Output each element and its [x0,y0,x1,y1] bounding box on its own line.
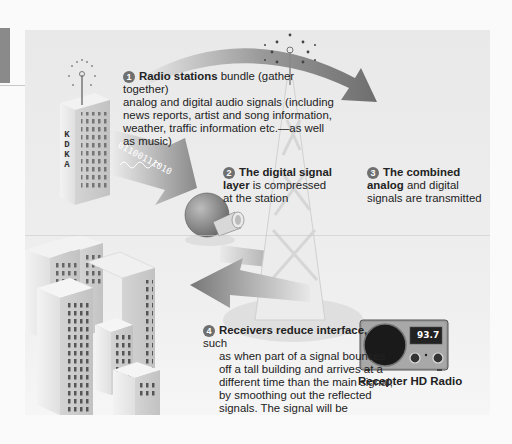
step-3-heading: analog [367,179,404,191]
radio-frequency-display: 93.7 [417,330,439,340]
caption-text: and digital [404,179,459,191]
step-number-badge: 1 [123,71,135,83]
call-sign-letter: D [63,140,71,150]
caption-text: is compressed [250,179,327,191]
step-2-caption: 2The digital signal layer is compressed … [223,166,343,205]
caption-line: weather, traffic information etc.—as wel… [123,122,338,135]
step-3-caption: 3The combined analog and digital signals… [367,166,490,205]
caption-line: as when part of a signal bounces [203,350,393,363]
radio-caption: Recepter HD Radio [358,375,462,387]
side-tab-marker [0,28,10,83]
step-2-heading: The digital signal [239,166,332,178]
call-sign-letter: K [63,150,71,160]
step-number-badge: 2 [223,167,235,179]
step-number-badge: 3 [367,167,379,179]
caption-line: at the station [223,192,343,205]
caption-line: as music) [123,135,338,148]
step-3-heading: The combined [383,166,460,178]
step-1-caption: 1Radio stations bundle (gather together)… [123,70,338,148]
step-4-heading: Receivers reduce interface, [219,324,367,336]
call-sign-letter: K [63,130,71,140]
station-call-sign: K D K A [63,130,71,170]
divider-line [0,85,25,86]
caption-line: signals are transmitted [367,192,490,205]
step-number-badge: 4 [203,325,215,337]
caption-line: analog and digital audio signals (includ… [123,96,338,109]
step-2-heading: layer [223,179,250,191]
step-4-caption: 4Receivers reduce interface, such as whe… [203,324,393,415]
caption-line: news reports, artist and song informatio… [123,109,338,122]
caption-line: by smoothing out the reflected [203,389,393,402]
caption-line: signals. The signal will be [203,402,393,415]
step-1-heading: Radio stations [139,70,217,82]
diagram-panel: K D K A 01100111010 1Radio stations bund… [25,30,490,415]
caption-text: such [203,337,227,349]
call-sign-letter: A [63,160,71,170]
divider-line [25,235,490,236]
